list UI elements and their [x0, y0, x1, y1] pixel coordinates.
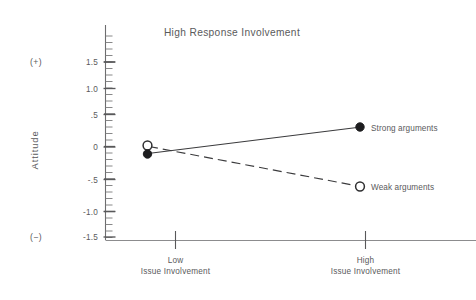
x-axis-caption-left: Issue Involvement	[141, 267, 211, 276]
y-tick-label-0-5: .5	[91, 111, 98, 120]
x-tick-label-high: High	[357, 256, 375, 265]
series-weak-arguments	[143, 141, 364, 191]
y-tick-label-neg-0-5: -.5	[88, 176, 98, 185]
x-axis-caption-right: Issue Involvement	[331, 267, 401, 276]
y-tick-label-neg-1-5: -1.5	[83, 233, 98, 242]
strong-arguments-point-high	[356, 123, 364, 131]
y-axis-tick-labels: 1.5 1.0 .5 0 -.5 -1.0 -1.5	[83, 58, 98, 242]
y-axis-title: Attitude	[29, 131, 40, 170]
legend-label-strong-arguments: Strong arguments	[371, 124, 438, 133]
y-tick-label-neg-1-0: -1.0	[83, 208, 98, 217]
y-tick-label-1-0: 1.0	[86, 85, 98, 94]
chart-title: High Response Involvement	[164, 27, 300, 38]
negative-sign-label: (−)	[30, 232, 42, 242]
weak-arguments-point-high	[356, 182, 365, 191]
strong-arguments-point-low	[143, 150, 151, 158]
positive-sign-label: (+)	[30, 57, 42, 67]
x-axis-labels: Low Issue Involvement High Issue Involve…	[141, 256, 401, 276]
y-axis-minor-ticks	[106, 36, 113, 238]
weak-arguments-point-low	[143, 141, 152, 150]
axes-group	[106, 25, 476, 241]
x-tick-label-low: Low	[168, 256, 184, 265]
y-tick-label-0: 0	[93, 143, 98, 152]
chart-figure: 1.5 1.0 .5 0 -.5 -1.0 -1.5 (+) (−) Attit…	[0, 0, 476, 300]
chart-canvas: 1.5 1.0 .5 0 -.5 -1.0 -1.5 (+) (−) Attit…	[0, 0, 476, 300]
strong-arguments-line	[148, 128, 357, 154]
y-tick-label-1-5: 1.5	[86, 58, 98, 67]
legend-label-weak-arguments: Weak arguments	[371, 183, 434, 192]
series-strong-arguments	[143, 123, 364, 158]
weak-arguments-line	[149, 147, 358, 187]
